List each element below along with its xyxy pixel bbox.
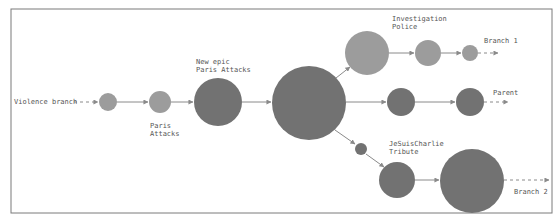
node-investigation-police bbox=[345, 31, 389, 75]
node-parent-end bbox=[456, 88, 484, 116]
node-branch2-end bbox=[440, 149, 504, 213]
label-branch2: Branch 2 bbox=[514, 188, 548, 196]
node-central bbox=[272, 66, 346, 140]
label-new-epic-1: New epic bbox=[196, 58, 230, 66]
node-n8 bbox=[387, 88, 415, 116]
node-paris-attacks bbox=[149, 91, 171, 113]
label-paris-attacks-2: Attacks bbox=[150, 130, 180, 138]
label-jesuischarlie-2: Tribute bbox=[389, 148, 419, 156]
node-branch1-end bbox=[462, 45, 478, 61]
label-investigation-2: Police bbox=[392, 23, 417, 31]
node-n1 bbox=[99, 93, 117, 111]
label-parent: Parent bbox=[493, 89, 518, 97]
label-new-epic-2: Paris Attacks bbox=[196, 66, 251, 74]
branch-diagram: Violence branch Paris Attacks New epic P… bbox=[0, 0, 557, 224]
node-n10 bbox=[355, 143, 367, 155]
node-jesuischarlie-tribute bbox=[379, 162, 415, 198]
label-paris-attacks-1: Paris bbox=[150, 122, 171, 130]
label-investigation-1: Investigation bbox=[392, 15, 447, 23]
node-new-epic-paris-attacks bbox=[194, 78, 242, 126]
node-n6 bbox=[415, 40, 441, 66]
label-branch1: Branch 1 bbox=[484, 37, 518, 45]
label-jesuischarlie-1: JeSuisCharlie bbox=[389, 140, 444, 148]
label-violence-branch: Violence branch bbox=[14, 98, 77, 106]
